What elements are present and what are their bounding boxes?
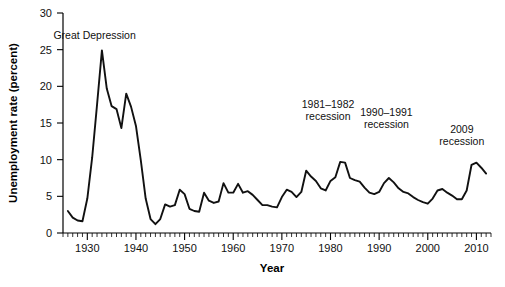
- x-tick-label-2010: 2010: [464, 242, 488, 254]
- annotation-recession-1981-1982: 1981–1982recession: [302, 98, 355, 122]
- x-tick-label-1950: 1950: [172, 242, 196, 254]
- x-axis-minor-ticks: [63, 233, 491, 237]
- y-axis-title: Unemployment rate (percent): [7, 43, 19, 203]
- y-axis-group: 051015202530: [40, 7, 63, 239]
- y-tick-label-15: 15: [40, 117, 52, 129]
- x-tick-label-1990: 1990: [367, 242, 391, 254]
- annotation-line: recession: [364, 118, 409, 130]
- y-tick-label-10: 10: [40, 154, 52, 166]
- annotation-great-depression: Great Depression: [53, 29, 135, 41]
- y-tick-label-25: 25: [40, 44, 52, 56]
- annotation-recession-2009: 2009recession: [439, 123, 484, 147]
- x-axis-tick-labels: 193019401950196019701980199020002010: [75, 242, 489, 254]
- x-tick-label-1930: 1930: [75, 242, 99, 254]
- x-tick-label-1940: 1940: [124, 242, 148, 254]
- y-axis-ticks: [57, 13, 63, 233]
- x-axis-title: Year: [260, 262, 285, 274]
- unemployment-rate-chart: 051015202530 193019401950196019701980199…: [0, 0, 505, 287]
- unemployment-rate-line: [68, 50, 486, 224]
- annotation-line: recession: [306, 110, 351, 122]
- x-tick-label-1970: 1970: [270, 242, 294, 254]
- y-tick-label-20: 20: [40, 80, 52, 92]
- annotation-line: Great Depression: [53, 29, 135, 41]
- y-tick-label-0: 0: [46, 227, 52, 239]
- y-tick-label-5: 5: [46, 190, 52, 202]
- x-tick-label-2000: 2000: [416, 242, 440, 254]
- y-tick-label-30: 30: [40, 7, 52, 19]
- y-axis-tick-labels: 051015202530: [40, 7, 52, 239]
- x-tick-label-1960: 1960: [221, 242, 245, 254]
- chart-plot-area: 051015202530 193019401950196019701980199…: [0, 0, 505, 287]
- annotation-line: recession: [439, 135, 484, 147]
- annotation-recession-1990-1991: 1990–1991recession: [360, 106, 413, 130]
- x-tick-label-1980: 1980: [318, 242, 342, 254]
- x-axis-group: 193019401950196019701980199020002010: [63, 233, 491, 254]
- annotation-line: 2009: [450, 123, 474, 135]
- annotation-line: 1990–1991: [360, 106, 413, 118]
- data-series-group: [68, 50, 486, 224]
- chart-annotations: Great Depression1981–1982recession1990–1…: [53, 29, 484, 147]
- annotation-line: 1981–1982: [302, 98, 355, 110]
